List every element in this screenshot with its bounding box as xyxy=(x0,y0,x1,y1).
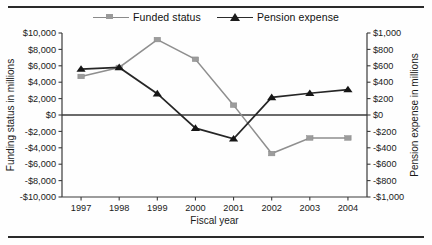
x-axis-tick-label: 2002 xyxy=(261,203,281,213)
square-marker-icon xyxy=(106,14,113,19)
right-axis-tick-label: -$1,000 xyxy=(373,192,404,202)
left-axis-tick-label: $10,000 xyxy=(23,28,56,38)
right-axis-tick-label: -$800 xyxy=(373,176,397,186)
left-axis-tick-label: $2,000 xyxy=(28,94,56,104)
left-axis-tick-label: -$4,000 xyxy=(25,143,56,153)
x-axis: 19971998199920002001200220032004 xyxy=(62,197,367,213)
data-point-marker xyxy=(345,136,351,141)
left-axis-tick-label: -$8,000 xyxy=(25,176,56,186)
left-axis-tick-label: -$2,000 xyxy=(25,127,56,137)
left-axis-tick-label: $4,000 xyxy=(28,77,56,87)
left-axis-tick-label: $0 xyxy=(46,110,56,120)
legend-label-pension-expense: Pension expense xyxy=(257,11,339,23)
x-axis-tick-label: 2000 xyxy=(185,203,205,213)
x-axis-tick-label: 2003 xyxy=(300,203,320,213)
line-triangle-marker-icon xyxy=(217,12,253,23)
x-axis-tick-label: 1998 xyxy=(109,203,129,213)
right-axis-tick-label: $0 xyxy=(373,110,383,120)
data-point-marker xyxy=(230,103,236,108)
right-axis-tick-label: $400 xyxy=(373,77,393,87)
legend-entry-funded-status: Funded status xyxy=(93,11,201,23)
plot-area-wrapper: $10,000$8,000$6,000$4,000$2,000$0-$2,000… xyxy=(0,24,432,230)
right-axis-tick-label: -$600 xyxy=(373,159,397,169)
data-point-marker xyxy=(268,151,274,156)
left-axis-tick-label: -$10,000 xyxy=(20,192,56,202)
x-axis-title: Fiscal year xyxy=(190,215,239,226)
line-square-marker-icon xyxy=(93,12,129,23)
data-point-marker xyxy=(192,57,198,62)
x-axis-tick-label: 1999 xyxy=(147,203,167,213)
x-axis-tick-label: 1997 xyxy=(71,203,91,213)
legend-entry-pension-expense: Pension expense xyxy=(217,11,339,23)
left-axis-tick-label: -$6,000 xyxy=(25,159,56,169)
right-axis-tick-label: $1,000 xyxy=(373,28,401,38)
right-axis-tick-label: $800 xyxy=(373,45,393,55)
chart-figure: Funded status Pension expense $10,000$8,… xyxy=(0,0,432,245)
bottom-divider-rule xyxy=(8,236,424,238)
data-point-marker xyxy=(78,74,84,79)
series-line-pension-expense xyxy=(81,67,348,138)
chart-canvas: $10,000$8,000$6,000$4,000$2,000$0-$2,000… xyxy=(0,24,432,230)
right-axis-tick-label: -$200 xyxy=(373,127,397,137)
data-point-marker xyxy=(307,136,313,141)
right-axis-tick-label: $600 xyxy=(373,61,393,71)
x-axis-tick-label: 2001 xyxy=(223,203,243,213)
legend-label-funded-status: Funded status xyxy=(133,11,201,23)
data-point-marker xyxy=(154,37,160,42)
left-axis-title: Funding status in millions xyxy=(5,59,16,171)
right-axis: $1,000$800$600$400$200$0-$200-$400-$600-… xyxy=(367,28,404,202)
left-axis-tick-label: $8,000 xyxy=(28,45,56,55)
left-axis: $10,000$8,000$6,000$4,000$2,000$0-$2,000… xyxy=(20,28,62,202)
x-axis-tick-label: 2004 xyxy=(338,203,358,213)
data-series-group xyxy=(76,37,352,156)
right-axis-tick-label: -$400 xyxy=(373,143,397,153)
triangle-marker-icon xyxy=(230,13,240,21)
left-axis-tick-label: $6,000 xyxy=(28,61,56,71)
right-axis-title: Pension expense in millions xyxy=(409,53,420,176)
right-axis-tick-label: $200 xyxy=(373,94,393,104)
